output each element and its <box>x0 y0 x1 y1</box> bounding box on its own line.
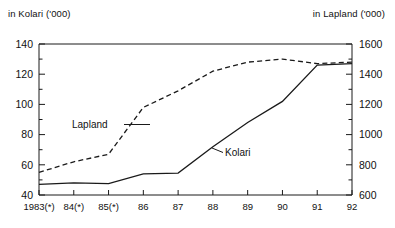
kolari-series-label: Kolari <box>225 147 251 158</box>
plot-canvas: 406080100120140 6008001000120014001600 1… <box>0 0 395 228</box>
x-tick-label: 90 <box>277 201 288 212</box>
x-tick-label: 85(*) <box>98 201 119 212</box>
left-tick-label: 40 <box>21 189 33 201</box>
right-tick-label: 1000 <box>359 128 383 140</box>
x-tick-label: 84(*) <box>63 201 84 212</box>
right-tick-label: 1200 <box>359 98 383 110</box>
x-tick-label: 89 <box>242 201 253 212</box>
x-tick-label: 87 <box>173 201 184 212</box>
left-tick-label: 60 <box>21 159 33 171</box>
x-tick-label: 1983(*) <box>23 201 54 212</box>
right-tick-label: 600 <box>359 189 377 201</box>
left-tick-label: 120 <box>15 68 33 80</box>
right-tick-label: 800 <box>359 159 377 171</box>
left-tick-label: 140 <box>15 38 33 50</box>
kolari-leader-line <box>212 148 223 153</box>
series-line-lapland <box>39 59 352 172</box>
right-tick-label: 1600 <box>359 38 383 50</box>
x-tick-label: 92 <box>347 201 358 212</box>
x-tick-label: 88 <box>208 201 219 212</box>
lapland-series-label: Lapland <box>72 119 108 130</box>
left-tick-label: 100 <box>15 98 33 110</box>
x-tick-label: 86 <box>138 201 149 212</box>
chart-figure: in Kolari ('000) in Lapland ('000) 40608… <box>0 0 395 228</box>
right-tick-label: 1400 <box>359 68 383 80</box>
x-tick-label: 91 <box>312 201 323 212</box>
left-tick-label: 80 <box>21 128 33 140</box>
x-axis-ticks: 1983(*)84(*)85(*)86878889909192 <box>23 190 357 212</box>
left-axis-title: in Kolari ('000) <box>8 8 71 19</box>
right-axis-title: in Lapland ('000) <box>313 8 385 19</box>
left-axis-ticks: 406080100120140 <box>15 38 45 201</box>
